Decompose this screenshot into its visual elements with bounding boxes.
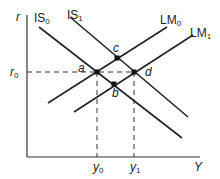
- r0-tick-label: r0: [10, 66, 18, 80]
- lm1-label: LM1: [190, 27, 211, 41]
- point-a-marker: [95, 70, 100, 75]
- is1-curve: [70, 17, 188, 117]
- point-b-label: b: [112, 87, 119, 99]
- y1-tick-label: y1: [130, 161, 140, 175]
- is1-label: IS1: [67, 9, 83, 23]
- point-d-marker: [132, 70, 137, 75]
- point-a-label: a: [78, 62, 85, 74]
- point-c-label: c: [113, 42, 119, 54]
- y-axis-label: r: [16, 11, 20, 23]
- y0-tick-label: y0: [93, 161, 103, 175]
- is-lm-diagram: [0, 0, 220, 179]
- point-c-marker: [115, 56, 120, 61]
- is0-curve: [39, 27, 182, 138]
- is0-label: IS0: [34, 12, 50, 26]
- x-axis-label: Y: [194, 161, 202, 173]
- lm0-label: LM0: [160, 14, 181, 28]
- point-d-label: d: [145, 66, 152, 78]
